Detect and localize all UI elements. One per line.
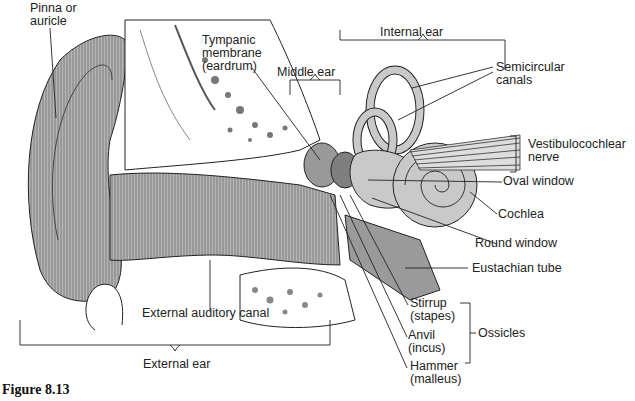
label-round-window: Round window	[475, 237, 557, 250]
eustachian-tube-shape	[345, 215, 440, 300]
label-hammer-line2: (malleus)	[410, 373, 461, 386]
label-stirrup-line2: (stapes)	[410, 310, 455, 323]
label-hammer: Hammer (malleus)	[410, 360, 461, 386]
label-anvil-line2: (incus)	[408, 342, 446, 355]
label-middle-ear: Middle ear	[277, 66, 335, 79]
label-internal-ear: Internal ear	[380, 26, 443, 39]
label-tympanic-line3: (eardrum)	[202, 60, 262, 73]
label-pinna: Pinna or auricle	[30, 2, 77, 28]
label-pinna-line2: auricle	[30, 15, 77, 28]
label-semicircular-line2: canals	[496, 74, 565, 87]
label-tympanic-membrane: Tympanic membrane (eardrum)	[202, 34, 262, 73]
label-eustachian-tube: Eustachian tube	[472, 262, 562, 275]
label-vestibulocochlear-line2: nerve	[528, 151, 626, 164]
label-vestibulocochlear-nerve: Vestibulocochlear nerve	[528, 138, 626, 164]
label-semicircular-canals: Semicircular canals	[496, 61, 565, 87]
label-anvil: Anvil (incus)	[408, 329, 446, 355]
external-auditory-canal-shape	[110, 173, 340, 265]
figure-caption: Figure 8.13	[2, 382, 69, 398]
label-stirrup: Stirrup (stapes)	[410, 297, 455, 323]
vestibulocochlear-nerve-shape	[410, 135, 520, 170]
label-external-auditory-canal: External auditory canal	[142, 307, 269, 320]
label-cochlea: Cochlea	[498, 208, 544, 221]
label-external-ear: External ear	[143, 358, 210, 371]
label-oval-window: Oval window	[503, 175, 574, 188]
label-ossicles: Ossicles	[478, 327, 525, 340]
